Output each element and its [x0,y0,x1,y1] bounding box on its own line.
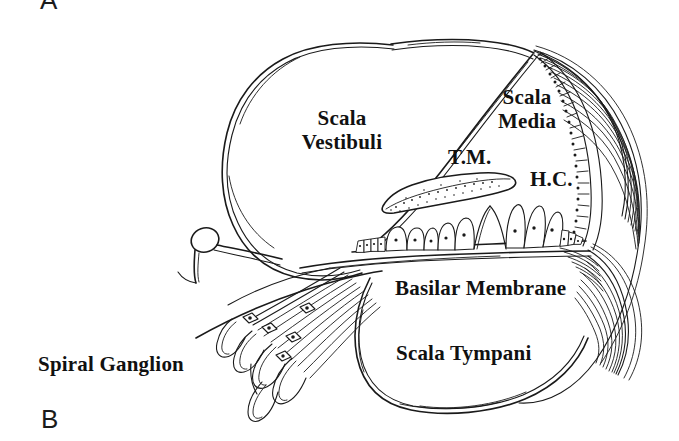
label-scala-media: Scala Media [487,85,567,133]
basilar-membrane [300,251,591,273]
bony-spiral-lamina-limbus [178,224,282,283]
label-tectorial-membrane: T.M. [448,145,492,169]
ganglion-branch [253,332,301,388]
inner-hair-cell-group [424,218,474,250]
ganglion-branch [216,313,258,357]
label-scala-vestibuli-line2: Vestibuli [292,130,392,154]
label-scala-tympani: Scala Tympani [396,341,531,365]
cochlear-duct-apex-band [391,40,534,59]
inner-sulcus-cells [356,237,385,252]
outer-hair-cells [506,205,563,248]
label-scala-vestibuli: Scala Vestibuli [292,106,392,154]
label-hair-cells: H.C. [530,167,573,191]
tunnel-of-corti-pillars [474,206,506,249]
hensen-claudius-cells [560,230,583,246]
tectorial-membrane-shape [382,173,516,214]
label-scala-media-line2: Media [487,109,567,133]
label-basilar-membrane: Basilar Membrane [395,276,566,300]
panel-letter-b: B [41,406,58,432]
label-scala-vestibuli-line1: Scala [292,106,392,130]
interdental-cells [386,227,424,251]
label-spiral-ganglion: Spiral Ganglion [38,352,184,376]
label-scala-media-line1: Scala [487,85,567,109]
panel-letter-a: A [40,0,57,13]
figure-page: A B Scala Vestibuli Scala Media T.M. H.C… [0,0,679,441]
spiral-ligament-fibers-lower [560,244,642,380]
